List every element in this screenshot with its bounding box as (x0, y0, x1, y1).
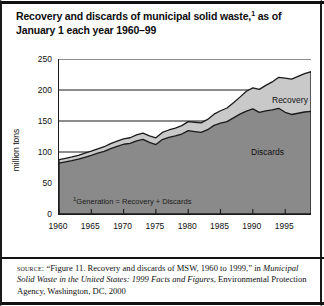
page-title: Recovery and discards of municipal solid… (16, 10, 310, 24)
source-label: source: (17, 264, 44, 273)
y-tick-50: 50 (26, 179, 52, 188)
y-tick-0: 0 (26, 210, 52, 219)
figure-title-block: Recovery and discards of municipal solid… (16, 10, 310, 37)
title-line1-text: Recovery and discards of municipal solid… (16, 10, 251, 22)
top-divider (2, 1, 324, 4)
x-tick-1980: 1980 (170, 221, 204, 231)
x-tick-1990: 1990 (235, 221, 269, 231)
y-axis-tick-labels: 250 200 150 100 50 0 (24, 49, 52, 245)
x-tick-1995: 1995 (267, 221, 301, 231)
y-tick-100: 100 (26, 148, 52, 157)
x-tick-1965: 1965 (73, 221, 107, 231)
plot-footnote-text: Generation = Recovery + Discards (76, 197, 191, 206)
title-line2: January 1 each year 1960–99 (16, 24, 310, 38)
chart-region: million tons 250 200 150 100 50 0 (2, 49, 324, 245)
area-chart-svg (59, 59, 311, 214)
plot-area: Recovery Discards 1Generation = Recovery… (58, 59, 311, 215)
series-label-recovery: Recovery (272, 95, 308, 105)
bottom-divider (2, 302, 324, 305)
y-axis-title: million tons (11, 115, 21, 185)
title-line1-tail: as of (255, 10, 282, 22)
plot-footnote: 1Generation = Recovery + Discards (73, 197, 191, 206)
y-tick-250: 250 (26, 55, 52, 64)
source-note: source: “Figure 11. Recovery and discard… (17, 263, 309, 297)
source-text-part1: “Figure 11. Recovery and discards of MSW… (44, 263, 263, 273)
source-divider (2, 257, 324, 259)
y-tick-150: 150 (26, 117, 52, 126)
x-tick-1985: 1985 (203, 221, 237, 231)
series-label-discards: Discards (251, 147, 284, 157)
x-tick-1960: 1960 (41, 221, 75, 231)
x-tick-1975: 1975 (138, 221, 172, 231)
y-tick-200: 200 (26, 86, 52, 95)
x-tick-1970: 1970 (106, 221, 140, 231)
